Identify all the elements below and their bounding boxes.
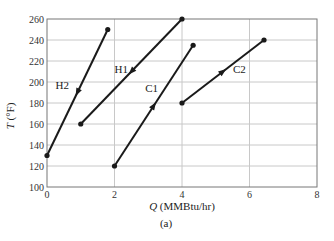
y-axis-ticks: 100120140160180200220240260 (29, 14, 44, 193)
y-tick-label: 100 (29, 182, 44, 193)
x-axis-ticks: 02468 (45, 189, 320, 200)
endpoint-marker (179, 100, 184, 105)
y-tick-label: 200 (29, 77, 44, 88)
y-tick-label: 160 (29, 119, 44, 130)
y-tick-label: 140 (29, 140, 44, 151)
endpoint-marker (78, 121, 83, 126)
y-tick-label: 220 (29, 56, 44, 67)
y-tick-label: 180 (29, 98, 44, 109)
endpoint-marker (44, 153, 49, 158)
series-c1: C1 (112, 43, 196, 169)
series-label: H1 (115, 63, 128, 75)
x-axis-label: Q (MMBtu/hr) (149, 200, 215, 213)
y-tick-label: 120 (29, 161, 44, 172)
x-tick-label: 4 (180, 189, 185, 200)
endpoint-marker (105, 27, 110, 32)
endpoint-marker (191, 43, 196, 48)
series-h1: H1 (78, 16, 184, 126)
figure-caption: (a) (160, 217, 173, 230)
y-tick-label: 260 (29, 14, 44, 25)
chart: 100120140160180200220240260 02468 H2H1C1… (0, 0, 334, 241)
series-label: H2 (55, 79, 68, 91)
series-label: C1 (145, 82, 158, 94)
series-lines: H2H1C1C2 (44, 16, 266, 168)
y-axis-label: T (°F) (4, 102, 17, 129)
endpoint-marker (179, 16, 184, 21)
series-h2: H2 (44, 27, 110, 158)
endpoint-marker (112, 163, 117, 168)
x-tick-label: 8 (315, 189, 320, 200)
endpoint-marker (261, 37, 266, 42)
x-tick-label: 0 (45, 189, 50, 200)
series-label: C2 (233, 63, 246, 75)
y-tick-label: 240 (29, 35, 44, 46)
x-tick-label: 2 (112, 189, 117, 200)
flow-direction-arrow-icon (73, 88, 82, 98)
x-tick-label: 6 (247, 189, 252, 200)
